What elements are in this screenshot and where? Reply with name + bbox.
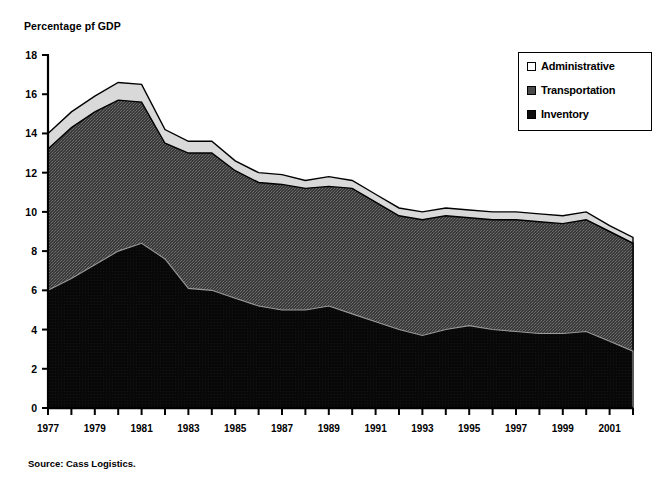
x-tick-label: 1983 — [177, 423, 200, 434]
x-tick-label: 1999 — [552, 423, 575, 434]
source-note: Source: Cass Logistics. — [28, 458, 136, 469]
x-tick-label: 2001 — [598, 423, 621, 434]
legend-swatch-administrative-icon — [527, 62, 536, 71]
x-tick-label: 1985 — [224, 423, 247, 434]
legend-label-inventory: Inventory — [541, 108, 589, 120]
y-tick-label: 0 — [31, 402, 37, 414]
x-tick-label: 1977 — [37, 423, 60, 434]
legend-item-administrative: Administrative — [527, 60, 615, 72]
y-tick-label: 4 — [31, 324, 37, 336]
legend-swatch-transportation-icon — [527, 86, 536, 95]
legend-item-transportation: Transportation — [527, 84, 615, 96]
chart-legend: Administrative Transportation Inventory — [518, 52, 652, 131]
y-tick-label: 18 — [25, 49, 37, 61]
legend-item-inventory: Inventory — [527, 108, 589, 120]
y-tick-label: 16 — [25, 88, 37, 100]
y-tick-label: 10 — [25, 206, 37, 218]
y-axis-tick-labels: 024681012141618 — [25, 49, 37, 414]
logistics-cost-area-chart: Percentage pf GDP 02468101214161 — [0, 0, 670, 482]
y-tick-label: 2 — [31, 363, 37, 375]
y-tick-label: 8 — [31, 245, 37, 257]
legend-swatch-inventory-icon — [527, 110, 536, 119]
x-tick-label: 1995 — [458, 423, 481, 434]
y-tick-label: 14 — [25, 127, 37, 139]
x-tick-label: 1981 — [130, 423, 153, 434]
x-tick-label: 1987 — [271, 423, 294, 434]
x-tick-label: 1991 — [364, 423, 387, 434]
x-axis-tick-labels: 1977197919811983198519871989199119931995… — [37, 423, 621, 434]
stacked-area-layers — [48, 82, 633, 408]
x-tick-label: 1993 — [411, 423, 434, 434]
x-tick-label: 1997 — [505, 423, 528, 434]
legend-label-administrative: Administrative — [541, 60, 615, 72]
legend-label-transportation: Transportation — [541, 84, 615, 96]
y-tick-label: 12 — [25, 167, 37, 179]
y-tick-label: 6 — [31, 284, 37, 296]
x-tick-label: 1989 — [318, 423, 341, 434]
x-tick-label: 1979 — [84, 423, 107, 434]
